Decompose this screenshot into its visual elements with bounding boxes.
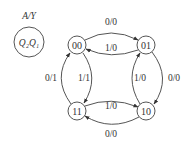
label-10-to-01: 1/0: [134, 73, 146, 83]
label-01-to-00: 1/0: [105, 43, 117, 53]
legend-state-format: Q₂Q₁: [19, 38, 39, 48]
state-00: 00: [68, 36, 86, 54]
state-00-label: 00: [72, 40, 82, 51]
label-10-to-11: 0/0: [105, 129, 117, 139]
legend-title: A/Y: [21, 11, 37, 21]
edge-00-to-01: [85, 33, 138, 40]
label-11-to-00: 0/1: [45, 73, 57, 83]
label-00-to-11: 1/1: [78, 73, 90, 83]
state-10: 10: [137, 102, 155, 120]
edge-11-to-00: [61, 53, 71, 104]
state-diagram: A/Y Q₂Q₁ 0/0 1/0 0/0 1/0 0/0 1/0 0/1 1/1: [0, 0, 187, 149]
state-11: 11: [68, 102, 86, 120]
state-11-label: 11: [72, 106, 82, 117]
edge-01-to-10: [152, 52, 163, 104]
legend: A/Y Q₂Q₁: [14, 11, 44, 57]
state-01-label: 01: [141, 40, 151, 51]
edge-10-to-11: [85, 116, 139, 124]
state-01: 01: [137, 36, 155, 54]
transition-labels: 0/0 1/0 0/0 1/0 0/0 1/0 0/1 1/1: [45, 17, 180, 139]
label-11-to-10: 1/0: [105, 101, 117, 111]
label-01-to-10: 0/0: [168, 73, 180, 83]
state-10-label: 10: [141, 106, 151, 117]
label-00-to-01: 0/0: [105, 17, 117, 27]
